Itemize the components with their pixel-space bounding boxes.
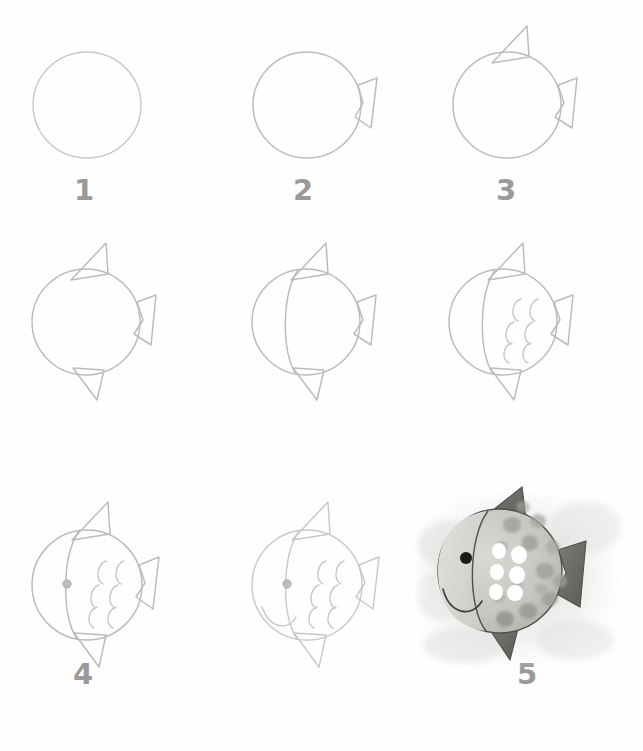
- spot: [516, 501, 530, 513]
- scale-arc: [108, 607, 116, 628]
- step-cell-4: 4: [0, 232, 220, 412]
- white-scale: [507, 585, 523, 601]
- step-6-drawing: [425, 232, 643, 412]
- spot: [536, 563, 554, 579]
- dorsal-fin: [71, 243, 108, 280]
- dorsal-fin: [291, 243, 328, 280]
- head-separator-line: [482, 270, 495, 374]
- eye: [63, 580, 71, 588]
- scale-arc: [110, 585, 118, 608]
- head-separator-line: [285, 270, 298, 374]
- spot: [519, 603, 537, 619]
- step-number-1: 1: [74, 176, 94, 205]
- body-circle: [33, 52, 141, 158]
- spot: [503, 517, 521, 533]
- scales-group: [89, 561, 124, 628]
- scale-arc: [116, 561, 124, 584]
- step-cell-8: 8: [220, 487, 440, 672]
- scale-arc: [309, 607, 317, 628]
- spot: [542, 592, 558, 606]
- step-number-3: 3: [496, 176, 516, 205]
- painted-eye: [460, 552, 472, 564]
- step-cell-1: 1: [0, 0, 220, 175]
- scale-arc: [330, 585, 338, 608]
- white-scale: [509, 566, 525, 584]
- body-circle: [453, 52, 561, 158]
- body-circle: [449, 269, 557, 375]
- step-cell-3: 3: [425, 0, 643, 175]
- white-scale: [489, 584, 503, 600]
- scales-group: [309, 561, 344, 628]
- body-circle: [252, 269, 360, 375]
- body-circle: [32, 530, 142, 640]
- scale-arc: [98, 561, 106, 584]
- scale-arc: [328, 607, 336, 628]
- spot: [530, 514, 546, 528]
- scale-arc: [530, 299, 538, 321]
- scale-arc: [525, 322, 533, 344]
- drawing-tutorial-sheet: 1 2 3 4: [0, 0, 643, 751]
- scale-arc: [523, 343, 531, 363]
- body-circle: [32, 269, 140, 375]
- body-circle: [252, 530, 362, 640]
- scale-arc: [311, 585, 319, 608]
- white-scale: [492, 543, 506, 559]
- step-cell-9: 9: [410, 485, 640, 680]
- scale-arc: [336, 561, 344, 584]
- step-4-drawing: [0, 232, 220, 412]
- spot: [553, 574, 567, 588]
- step-cell-6: 6: [425, 232, 643, 412]
- dorsal-fin: [488, 243, 525, 280]
- spot: [496, 611, 514, 627]
- step-9-painting: [410, 485, 640, 680]
- step-1-drawing: [0, 0, 220, 175]
- dorsal-fin: [492, 26, 529, 63]
- body-circle: [253, 52, 361, 158]
- white-scale: [490, 564, 504, 580]
- scale-arc: [91, 585, 99, 608]
- step-number-2: 2: [293, 176, 313, 205]
- step-cell-7: 7: [0, 487, 220, 672]
- scale-arc: [318, 561, 326, 584]
- step-cell-5: 5: [220, 232, 440, 412]
- scale-arc: [504, 343, 512, 363]
- step-2-drawing: [220, 0, 440, 175]
- step-3-drawing: [425, 0, 643, 175]
- step-7-drawing: [0, 487, 220, 672]
- eye: [283, 580, 291, 588]
- scale-arc: [89, 607, 97, 628]
- scale-arc: [513, 299, 521, 321]
- spot: [546, 540, 560, 554]
- step-8-drawing: [220, 487, 440, 672]
- step-cell-2: 2: [220, 0, 440, 175]
- scales-group: [504, 299, 538, 363]
- step-5-drawing: [220, 232, 440, 412]
- white-scale: [511, 546, 527, 564]
- spot: [535, 584, 547, 594]
- scale-arc: [506, 322, 514, 344]
